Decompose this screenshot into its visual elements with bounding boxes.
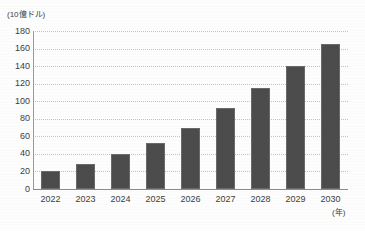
bar: [76, 164, 95, 189]
x-axis-tick-label: 2023: [68, 193, 103, 205]
y-axis-tick-label: 20: [4, 167, 30, 176]
y-axis-tick-label: 140: [4, 62, 30, 71]
y-axis-tick-label: 120: [4, 79, 30, 88]
bar: [146, 143, 165, 189]
bar-slot: [313, 31, 348, 189]
x-axis-tick-label: 2024: [103, 193, 138, 205]
x-axis-tick-label: 2028: [243, 193, 278, 205]
x-axis-tick-label: 2022: [33, 193, 68, 205]
bar: [251, 88, 270, 189]
bar-chart-figure: (10億ドル) 180160140120100806040200 2022202…: [0, 0, 365, 231]
y-axis-tick-label: 160: [4, 44, 30, 53]
y-axis-tick-label: 40: [4, 149, 30, 158]
bar-slot: [208, 31, 243, 189]
y-axis-tick-label: 0: [4, 185, 30, 194]
x-axis-tick-label: 2027: [208, 193, 243, 205]
y-axis-tick-label: 100: [4, 97, 30, 106]
bar-slot: [243, 31, 278, 189]
x-axis-tick-label: 2026: [173, 193, 208, 205]
bar: [41, 171, 60, 189]
x-axis-tick-label: 2029: [278, 193, 313, 205]
y-axis-unit-label: (10億ドル): [7, 10, 45, 20]
bar-slot: [68, 31, 103, 189]
x-axis-tick-labels: 202220232024202520262027202820292030: [33, 193, 348, 207]
bars-layer: [33, 31, 348, 189]
y-axis-tick-label: 180: [4, 27, 30, 36]
bar: [321, 44, 340, 189]
bar: [216, 108, 235, 189]
x-axis-tick-label: 2025: [138, 193, 173, 205]
y-axis-tick-labels: 180160140120100806040200: [0, 31, 30, 189]
bar: [111, 154, 130, 189]
y-axis-tick-label: 80: [4, 114, 30, 123]
y-axis-tick-label: 60: [4, 132, 30, 141]
bar-slot: [173, 31, 208, 189]
bar-slot: [138, 31, 173, 189]
bar-slot: [33, 31, 68, 189]
bar-slot: [103, 31, 138, 189]
x-axis-tick-label: 2030: [313, 193, 348, 205]
bar: [181, 128, 200, 189]
axis-baseline: [33, 189, 348, 190]
x-axis-unit-label: (年): [332, 208, 345, 218]
bar: [286, 66, 305, 189]
bar-slot: [278, 31, 313, 189]
